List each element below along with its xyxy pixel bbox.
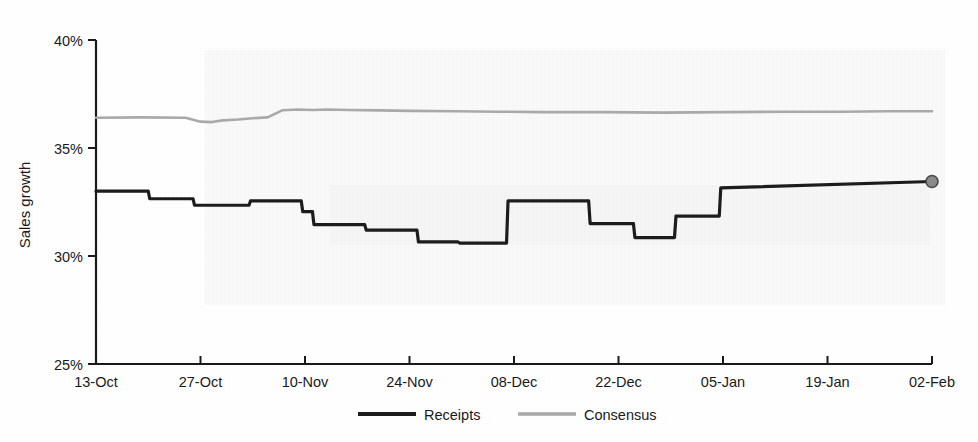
legend-label-consensus: Consensus xyxy=(584,407,657,423)
x-tick-label: 05-Jan xyxy=(701,374,745,390)
y-axis-title: Sales growth xyxy=(16,162,33,249)
series-end-marker xyxy=(926,175,938,187)
x-tick-label: 10-Nov xyxy=(282,374,329,390)
y-axis-title-group: Sales growth xyxy=(16,162,33,249)
series-line-receipts xyxy=(96,181,932,243)
x-axis-ticks: 13-Oct27-Oct10-Nov24-Nov08-Dec22-Dec05-J… xyxy=(74,356,955,390)
series-line-consensus xyxy=(96,110,932,123)
x-tick-label: 08-Dec xyxy=(491,374,538,390)
x-tick-label: 24-Nov xyxy=(386,374,433,390)
chart-legend: ReceiptsConsensus xyxy=(358,407,657,423)
data-series-group xyxy=(96,110,938,243)
x-tick-label: 27-Oct xyxy=(179,374,223,390)
y-tick-label: 35% xyxy=(54,141,83,157)
legend-label-receipts: Receipts xyxy=(424,407,480,423)
y-axis-ticks: 25%30%35%40% xyxy=(54,33,96,373)
y-tick-label: 30% xyxy=(54,249,83,265)
x-tick-label: 22-Dec xyxy=(595,374,642,390)
plot-svg: Sales growth 25%30%35%40% 13-Oct27-Oct10… xyxy=(0,0,978,442)
sales-growth-chart: Sales growth 25%30%35%40% 13-Oct27-Oct10… xyxy=(0,0,978,442)
y-tick-label: 25% xyxy=(54,357,83,373)
x-tick-label: 13-Oct xyxy=(74,374,118,390)
x-tick-label: 02-Feb xyxy=(909,374,955,390)
x-tick-label: 19-Jan xyxy=(805,374,849,390)
y-tick-label: 40% xyxy=(54,33,83,49)
